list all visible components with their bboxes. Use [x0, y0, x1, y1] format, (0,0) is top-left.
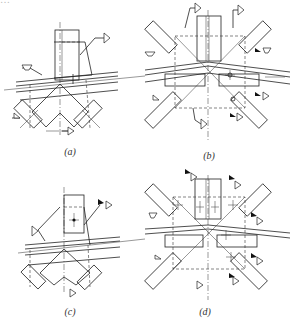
panel-b: (b)	[145, 0, 290, 165]
panel-c-caption: (c)	[50, 306, 90, 317]
panel-c: (c)	[0, 165, 145, 331]
truss-node-a-drawing	[0, 0, 145, 165]
panel-b-caption: (b)	[189, 150, 229, 161]
panel-a: (a)	[0, 0, 145, 165]
truss-node-b-drawing	[145, 0, 290, 165]
panel-d: (d)	[145, 165, 290, 331]
panel-a-caption: (a)	[50, 146, 90, 157]
panel-d-caption: (d)	[185, 306, 225, 317]
